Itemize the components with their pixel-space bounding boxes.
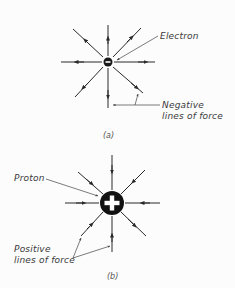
proton-leader-line: [46, 179, 98, 196]
positive-lines-leader: [73, 238, 110, 258]
positive-lines-label-line2: lines of force: [14, 255, 75, 265]
positive-lines-label-line1: Positive: [14, 244, 51, 254]
electron-leader-line: [117, 36, 158, 60]
electric-field-diagram: Electron Negative lines of force (a) Pro…: [0, 0, 235, 288]
electron-charge: [104, 58, 113, 67]
negative-lines-label-line2: lines of force: [162, 111, 223, 121]
caption-a: (a): [103, 131, 114, 140]
negative-lines-leader: [113, 94, 160, 105]
negative-lines-label-line1: Negative: [162, 100, 204, 110]
proton-label: Proton: [14, 173, 45, 183]
caption-b: (b): [107, 272, 118, 281]
proton-charge: [100, 191, 124, 215]
electron-label: Electron: [160, 31, 199, 41]
